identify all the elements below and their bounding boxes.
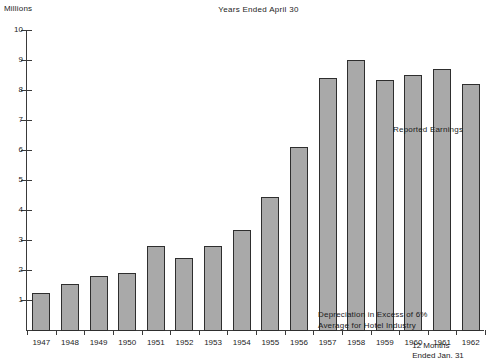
y-tick-label: 2 (19, 264, 23, 275)
annotation-reported-earnings: Reported Earnings (393, 124, 463, 135)
x-tick-label-1948: 1948 (61, 337, 79, 348)
bar-1950 (118, 273, 136, 331)
x-tick-label-1950: 1950 (118, 337, 136, 348)
bar-1952 (175, 258, 193, 331)
x-tick-mark (428, 330, 429, 335)
bar-1956 (290, 147, 308, 331)
y-tick-label: 5 (19, 174, 23, 185)
y-tick-label: 10 (14, 24, 23, 35)
bar-chart: Millions Years Ended April 30 1234567891… (0, 0, 491, 363)
bar-1959 (376, 80, 394, 332)
x-axis-footnote: 12 Months Ended Jan. 31 (412, 341, 464, 361)
y-tick-2: 2 (26, 270, 37, 271)
y-tick-3: 3 (26, 240, 37, 241)
x-tick-mark (142, 330, 143, 335)
bar-1957 (319, 78, 337, 331)
x-tick-label-1956: 1956 (290, 337, 308, 348)
x-tick-mark (485, 330, 486, 335)
x-tick-label-1952: 1952 (176, 337, 194, 348)
x-tick-label-1947: 1947 (32, 337, 50, 348)
chart-title: Years Ended April 30 (13, 5, 491, 14)
x-tick-label-1962: 1962 (462, 337, 480, 348)
y-tick-label: 8 (19, 84, 23, 95)
y-tick-label: 3 (19, 234, 23, 245)
x-tick-mark (285, 330, 286, 335)
y-tick-5: 5 (26, 180, 37, 181)
bar-1961 (433, 69, 451, 331)
annotation-depreciation: Depreciation in Excess of 6% Average for… (318, 309, 428, 331)
y-tick-9: 9 (26, 60, 37, 61)
x-tick-label-1949: 1949 (90, 337, 108, 348)
x-tick-label-1951: 1951 (147, 337, 165, 348)
x-tick-mark (313, 330, 314, 335)
x-tick-mark (227, 330, 228, 335)
y-tick-10: 10 (26, 30, 37, 31)
y-tick-label: 4 (19, 204, 23, 215)
bar-1955 (261, 197, 279, 332)
x-tick-label-1959: 1959 (376, 337, 394, 348)
x-tick-label-1953: 1953 (204, 337, 222, 348)
y-tick-label: 7 (19, 114, 23, 125)
x-tick-mark (113, 330, 114, 335)
x-tick-label-1954: 1954 (233, 337, 251, 348)
bar-1947 (32, 293, 50, 332)
y-tick-7: 7 (26, 120, 37, 121)
bar-1960 (404, 75, 422, 331)
x-tick-label-1957: 1957 (319, 337, 337, 348)
x-tick-mark (256, 330, 257, 335)
x-tick-mark (27, 330, 28, 335)
y-tick-label: 6 (19, 144, 23, 155)
bar-1953 (204, 246, 222, 331)
x-tick-mark (170, 330, 171, 335)
x-tick-mark (456, 330, 457, 335)
x-tick-mark (56, 330, 57, 335)
bar-1954 (233, 230, 251, 332)
x-tick-mark (199, 330, 200, 335)
y-tick-label: 1 (19, 294, 23, 305)
x-tick-mark (84, 330, 85, 335)
y-tick-8: 8 (26, 90, 37, 91)
bar-1962 (462, 84, 480, 331)
x-tick-label-1955: 1955 (261, 337, 279, 348)
y-tick-label: 9 (19, 54, 23, 65)
bar-1951 (147, 246, 165, 331)
y-tick-4: 4 (26, 210, 37, 211)
bar-1958 (347, 60, 365, 331)
plot-area: 12345678910 1947194819491950195119521953… (26, 30, 484, 330)
bar-1949 (90, 276, 108, 331)
x-tick-label-1958: 1958 (347, 337, 365, 348)
y-tick-6: 6 (26, 150, 37, 151)
bar-1948 (61, 284, 79, 332)
